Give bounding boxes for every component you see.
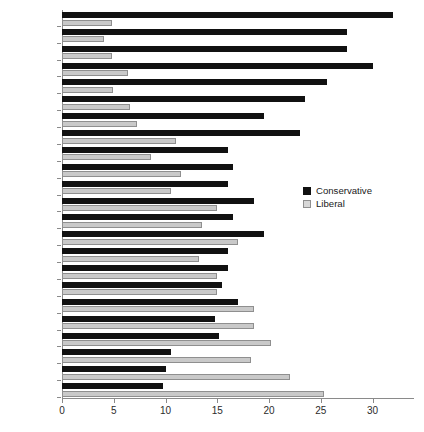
- x-axis-tick: [269, 398, 270, 403]
- bar-group: Belgium: [62, 246, 414, 263]
- bar-chart: PolandItalySlovakiaLithuaniaGreeceCzechi…: [0, 0, 424, 432]
- bar-liberal: [62, 374, 290, 380]
- bar-liberal: [62, 188, 171, 194]
- bar-group: Hungary: [62, 111, 414, 128]
- bar-conservative: [62, 198, 254, 204]
- bar-group: Estonia: [62, 162, 414, 179]
- legend-item-liberal: Liberal: [303, 197, 372, 210]
- bar-group: France: [62, 314, 414, 331]
- legend-swatch-liberal-icon: [303, 200, 311, 208]
- bar-conservative: [62, 366, 166, 372]
- bar-liberal: [62, 306, 254, 312]
- bar-liberal: [62, 20, 112, 26]
- bar-group: Austria: [62, 229, 414, 246]
- bar-conservative: [62, 265, 228, 271]
- y-axis-tick: [57, 178, 61, 179]
- bar-liberal: [62, 171, 181, 177]
- bar-conservative: [62, 383, 163, 389]
- x-axis-tick-label: 30: [367, 405, 378, 416]
- legend-swatch-conservative-icon: [303, 187, 311, 195]
- x-axis-tick: [166, 398, 167, 403]
- x-axis-tick-label: 0: [59, 405, 65, 416]
- y-axis-tick: [57, 279, 61, 280]
- x-axis-tick-label: 20: [263, 405, 274, 416]
- bar-group: Netherlands: [62, 347, 414, 364]
- chart-legend: Conservative Liberal: [303, 184, 372, 210]
- bar-group: Ireland: [62, 212, 414, 229]
- y-axis-tick: [57, 161, 61, 162]
- bar-conservative: [62, 231, 264, 237]
- bar-conservative: [62, 214, 233, 220]
- bar-liberal: [62, 256, 199, 262]
- bar-group: Great Britain: [62, 263, 414, 280]
- x-axis-tick-label: 25: [315, 405, 326, 416]
- bar-liberal: [62, 87, 113, 93]
- x-axis-tick-label: 5: [111, 405, 117, 416]
- bar-liberal: [62, 104, 130, 110]
- y-axis-tick: [57, 330, 61, 331]
- y-axis-tick: [57, 296, 61, 297]
- bar-liberal: [62, 340, 271, 346]
- y-axis-tick: [57, 144, 61, 145]
- bar-conservative: [62, 316, 215, 322]
- y-axis-tick: [57, 228, 61, 229]
- bar-group: Switzerland: [62, 364, 414, 381]
- y-axis-tick: [57, 245, 61, 246]
- y-axis-tick: [57, 363, 61, 364]
- x-axis-tick: [62, 398, 63, 403]
- bar-group: Portugal: [62, 145, 414, 162]
- y-axis-tick: [57, 346, 61, 347]
- bar-conservative: [62, 282, 222, 288]
- bar-conservative: [62, 333, 219, 339]
- x-axis-tick-label: 10: [160, 405, 171, 416]
- y-axis-tick: [57, 397, 61, 398]
- y-axis-tick: [57, 26, 61, 27]
- legend-item-conservative: Conservative: [303, 184, 372, 197]
- bar-group: Italy: [62, 27, 414, 44]
- y-axis-tick: [57, 76, 61, 77]
- bar-group: Finland: [62, 280, 414, 297]
- y-axis-tick: [57, 313, 61, 314]
- bar-conservative: [62, 79, 327, 85]
- bar-conservative: [62, 248, 228, 254]
- y-axis-tick: [57, 211, 61, 212]
- bar-group: Czechia: [62, 94, 414, 111]
- legend-label-liberal: Liberal: [316, 197, 345, 210]
- bar-liberal: [62, 70, 128, 76]
- y-axis-tick: [57, 43, 61, 44]
- bar-group: Greece: [62, 77, 414, 94]
- bar-liberal: [62, 357, 251, 363]
- y-axis-tick: [57, 380, 61, 381]
- bar-conservative: [62, 130, 300, 136]
- bar-liberal: [62, 391, 324, 397]
- bar-conservative: [62, 46, 347, 52]
- bar-group: Spain: [62, 128, 414, 145]
- bar-group: Slovakia: [62, 44, 414, 61]
- x-axis-tick: [217, 398, 218, 403]
- bar-liberal: [62, 222, 202, 228]
- x-axis-tick: [321, 398, 322, 403]
- bar-liberal: [62, 239, 238, 245]
- bar-liberal: [62, 53, 112, 59]
- bar-liberal: [62, 121, 137, 127]
- y-axis-tick: [57, 195, 61, 196]
- bar-group: Lithuania: [62, 61, 414, 78]
- x-axis-tick-label: 15: [212, 405, 223, 416]
- legend-label-conservative: Conservative: [316, 184, 372, 197]
- bar-liberal: [62, 138, 176, 144]
- bar-liberal: [62, 323, 254, 329]
- bar-conservative: [62, 96, 305, 102]
- y-axis-tick: [57, 60, 61, 61]
- y-axis-tick: [57, 127, 61, 128]
- bar-conservative: [62, 181, 228, 187]
- bar-conservative: [62, 147, 228, 153]
- x-axis-tick: [114, 398, 115, 403]
- bar-group: Denmark: [62, 331, 414, 348]
- bar-conservative: [62, 164, 233, 170]
- bar-group: Germany: [62, 297, 414, 314]
- bar-conservative: [62, 113, 264, 119]
- bar-group: Poland: [62, 10, 414, 27]
- bar-conservative: [62, 299, 238, 305]
- x-axis-line: [62, 398, 414, 399]
- x-axis-tick: [373, 398, 374, 403]
